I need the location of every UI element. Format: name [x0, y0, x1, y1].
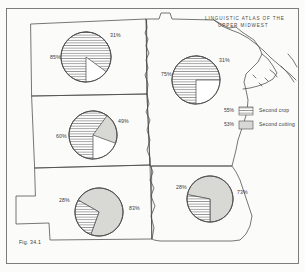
pie-label-minnesota-second-cutting: 31% [219, 58, 230, 63]
legend-label-second-cutting: Second cutting [259, 122, 295, 127]
map-title-line-2: UPPER MIDWEST [218, 24, 269, 29]
pie-nebraska [75, 188, 123, 236]
pie-label-iowa-second-crop: 28% [176, 185, 187, 190]
pie-minnesota [172, 56, 220, 104]
pie-label-nebraska-second-crop: 28% [59, 198, 70, 203]
legend-pct-second-crop: 55% [224, 108, 234, 113]
legend-label-second-crop: Second crop [259, 108, 289, 113]
legend-swatch-second-cutting [239, 121, 253, 129]
figure-panel: LINGUISTIC ATLAS OF THE UPPER MIDWEST 55… [0, 0, 305, 272]
figure-caption: Fig. 34.1 [19, 240, 41, 245]
pie-iowa [187, 176, 233, 222]
pie-south-dakota [69, 111, 117, 159]
pie-slice-second-crop [187, 195, 210, 222]
pie-north-dakota [61, 32, 111, 82]
pie-label-nebraska-second-cutting: 83% [129, 206, 140, 211]
state-outlines [16, 13, 297, 241]
pie-label-north-dakota-second-cutting: 31% [110, 33, 121, 38]
legend-pct-second-cutting: 53% [224, 122, 234, 127]
map-illustration [0, 0, 305, 272]
pie-label-south-dakota-second-crop: 60% [56, 134, 67, 139]
map-title-line-1: LINGUISTIC ATLAS OF THE [205, 17, 285, 22]
legend-swatch-second-crop [239, 107, 253, 115]
pie-label-south-dakota-second-cutting: 49% [118, 119, 129, 124]
pie-label-minnesota-second-crop: 75% [161, 72, 172, 77]
pie-label-north-dakota-second-crop: 85% [50, 55, 61, 60]
legend-swatches [239, 107, 253, 129]
pie-label-iowa-second-cutting: 73% [237, 190, 248, 195]
figure-border [7, 9, 299, 264]
